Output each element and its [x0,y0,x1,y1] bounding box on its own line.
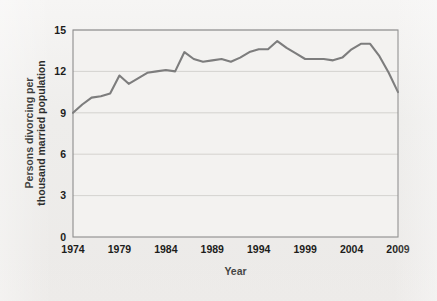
x-tick-label: 2004 [340,243,364,255]
x-tick-label: 1999 [293,243,317,255]
x-tick-label: 1979 [108,243,132,255]
x-tick-label: 1989 [201,243,225,255]
y-tick-label: 15 [54,24,66,36]
y-tick-label: 0 [60,231,66,243]
x-tick-label: 2009 [386,243,410,255]
x-axis-title: Year [224,265,246,277]
y-tick-label: 12 [54,65,66,77]
y-tick-label: 3 [60,189,66,201]
x-tick-label: 1974 [61,243,85,255]
x-tick-label: 1994 [247,243,271,255]
x-tick-label: 1984 [154,243,178,255]
y-axis-title-line1: Persons divorcing per [23,78,35,189]
chart-figure: 03691215 1974197919841989199419992004200… [0,0,437,301]
y-tick-label: 9 [60,107,66,119]
plot-area-background [73,30,398,237]
x-axis-tick-labels: 19741979198419891994199920042009 [61,243,410,255]
y-axis-tick-labels: 03691215 [54,24,66,243]
y-axis-title: Persons divorcing per thousand married p… [23,60,47,205]
y-axis-title-line2: thousand married population [35,60,47,205]
line-chart: 03691215 1974197919841989199419992004200… [0,0,437,301]
y-tick-label: 6 [60,148,66,160]
